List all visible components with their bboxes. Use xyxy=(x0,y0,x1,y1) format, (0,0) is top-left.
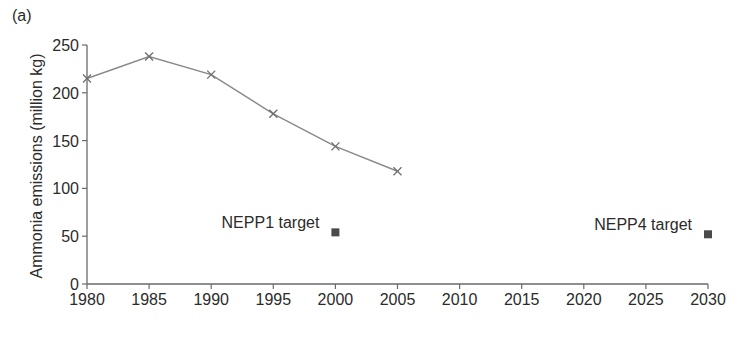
target-marker xyxy=(331,228,339,236)
y-tick-label: 200 xyxy=(52,85,79,102)
x-tick-label: 2015 xyxy=(504,291,540,308)
x-marker xyxy=(207,71,215,79)
x-tick-label: 2000 xyxy=(318,291,354,308)
ammonia-emissions-chart: (a) 050100150200250198019851990199520002… xyxy=(0,0,751,339)
x-tick-label: 2030 xyxy=(690,291,726,308)
panel-label: (a) xyxy=(12,7,32,24)
x-marker xyxy=(145,52,153,60)
annotations: NEPP1 targetNEPP4 target xyxy=(222,214,693,233)
x-tick-label: 2005 xyxy=(380,291,416,308)
x-marker xyxy=(269,110,277,118)
y-tick-label: 150 xyxy=(52,133,79,150)
y-tick-label: 100 xyxy=(52,180,79,197)
series-line xyxy=(87,56,398,171)
axes: 0501001502002501980198519901995200020052… xyxy=(52,37,726,308)
x-tick-label: 1985 xyxy=(131,291,167,308)
target-annotation: NEPP1 target xyxy=(222,214,320,231)
x-tick-label: 2010 xyxy=(442,291,478,308)
y-axis-title: Ammonia emissions (million kg) xyxy=(28,54,45,279)
x-marker xyxy=(394,167,402,175)
y-tick-label: 250 xyxy=(52,37,79,54)
target-marker xyxy=(704,230,712,238)
plot-area xyxy=(83,52,712,238)
x-tick-label: 1980 xyxy=(69,291,105,308)
x-marker xyxy=(331,142,339,150)
y-tick-label: 50 xyxy=(61,228,79,245)
x-tick-label: 1990 xyxy=(193,291,229,308)
target-annotation: NEPP4 target xyxy=(594,216,692,233)
x-tick-label: 2020 xyxy=(566,291,602,308)
x-tick-label: 2025 xyxy=(628,291,664,308)
x-tick-label: 1995 xyxy=(256,291,292,308)
